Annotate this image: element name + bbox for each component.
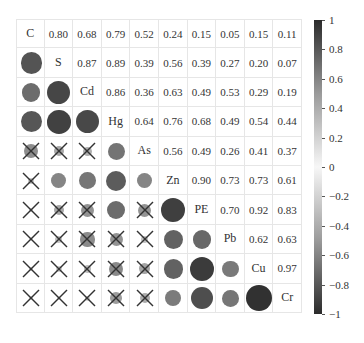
- correlation-value: 0.83: [278, 204, 297, 216]
- correlation-value: 0.26: [220, 145, 239, 157]
- non-significant-x-icon: [107, 289, 125, 307]
- lower-cell: [130, 284, 159, 313]
- diagonal-cell: Cr: [273, 284, 302, 313]
- variable-label: Pb: [224, 231, 237, 246]
- correlation-circle: [47, 110, 71, 134]
- correlation-value: 0.11: [278, 28, 297, 40]
- lower-cell: [45, 254, 74, 283]
- variable-label: PE: [194, 202, 208, 217]
- lower-cell: [102, 254, 131, 283]
- correlation-value: 0.49: [220, 115, 239, 127]
- upper-cell: 0.80: [45, 19, 74, 48]
- diagonal-cell: Cu: [245, 254, 274, 283]
- lower-cell: [188, 254, 217, 283]
- non-significant-x-icon: [107, 260, 125, 278]
- lower-cell: [102, 195, 131, 224]
- colorbar-tick-label: 0.2: [329, 132, 343, 144]
- lower-cell: [16, 48, 45, 77]
- diagonal-cell: Cd: [73, 78, 102, 107]
- colorbar-tick: [322, 108, 325, 109]
- upper-cell: 0.36: [130, 78, 159, 107]
- diagonal-cell: Pb: [216, 225, 245, 254]
- correlation-value: 0.73: [249, 174, 268, 186]
- lower-cell: [73, 107, 102, 136]
- correlation-value: 0.36: [135, 86, 154, 98]
- correlation-circle: [22, 83, 40, 101]
- correlation-value: 0.41: [249, 145, 268, 157]
- correlation-value: 0.56: [163, 57, 182, 69]
- correlation-circle: [76, 110, 99, 133]
- lower-cell: [130, 195, 159, 224]
- upper-cell: 0.63: [273, 225, 302, 254]
- upper-cell: 0.68: [73, 19, 102, 48]
- upper-cell: 0.15: [188, 19, 217, 48]
- upper-cell: 0.64: [130, 107, 159, 136]
- upper-cell: 0.39: [188, 48, 217, 77]
- non-significant-x-icon: [50, 230, 68, 248]
- correlation-value: 0.20: [249, 57, 268, 69]
- upper-cell: 0.86: [102, 78, 131, 107]
- colorbar-tick: [322, 255, 325, 256]
- variable-label: S: [55, 55, 62, 70]
- lower-cell: [16, 254, 45, 283]
- non-significant-x-icon: [78, 230, 96, 248]
- correlation-circle: [164, 230, 183, 249]
- lower-cell: [130, 166, 159, 195]
- upper-cell: 0.56: [159, 48, 188, 77]
- non-significant-x-icon: [50, 142, 68, 160]
- upper-cell: 0.26: [216, 137, 245, 166]
- upper-cell: 0.37: [273, 137, 302, 166]
- correlation-value: 0.49: [192, 86, 211, 98]
- upper-cell: 0.97: [273, 254, 302, 283]
- upper-cell: 0.70: [216, 195, 245, 224]
- lower-cell: [159, 254, 188, 283]
- correlation-value: 0.70: [220, 204, 239, 216]
- upper-cell: 0.76: [159, 107, 188, 136]
- upper-cell: 0.54: [245, 107, 274, 136]
- correlation-circle: [191, 287, 213, 309]
- lower-cell: [73, 254, 102, 283]
- correlation-value: 0.64: [135, 115, 154, 127]
- non-significant-x-icon: [136, 230, 154, 248]
- colorbar-tick: [322, 49, 325, 50]
- correlation-circle: [21, 111, 42, 132]
- upper-cell: 0.68: [188, 107, 217, 136]
- lower-cell: [73, 166, 102, 195]
- variable-label: Hg: [108, 114, 123, 129]
- upper-cell: 0.20: [245, 48, 274, 77]
- upper-cell: 0.89: [102, 48, 131, 77]
- upper-cell: 0.83: [273, 195, 302, 224]
- diagonal-cell: Hg: [102, 107, 131, 136]
- upper-cell: 0.29: [245, 78, 274, 107]
- upper-cell: 0.79: [102, 19, 131, 48]
- lower-cell: [159, 225, 188, 254]
- lower-cell: [102, 284, 131, 313]
- correlation-value: 0.79: [106, 28, 125, 40]
- correlation-circle: [108, 143, 125, 160]
- colorbar-tick: [322, 314, 325, 315]
- upper-cell: 0.24: [159, 19, 188, 48]
- diagonal-cell: As: [130, 137, 159, 166]
- upper-cell: 0.19: [273, 78, 302, 107]
- diagonal-cell: S: [45, 48, 74, 77]
- colorbar-tick: [322, 20, 325, 21]
- correlation-value: 0.39: [135, 57, 154, 69]
- diagonal-cell: Zn: [159, 166, 188, 195]
- lower-cell: [159, 284, 188, 313]
- correlation-circle: [165, 290, 181, 306]
- lower-cell: [102, 225, 131, 254]
- correlation-value: 0.44: [278, 115, 297, 127]
- correlation-value: 0.37: [278, 145, 297, 157]
- colorbar-tick-label: 0: [329, 161, 335, 173]
- correlation-value: 0.39: [192, 57, 211, 69]
- non-significant-x-icon: [136, 201, 154, 219]
- correlation-value: 0.53: [220, 86, 239, 98]
- correlation-value: 0.73: [220, 174, 239, 186]
- colorbar-tick: [322, 138, 325, 139]
- correlation-value: 0.87: [77, 57, 96, 69]
- colorbar-tick: [322, 285, 325, 286]
- colorbar-tick: [322, 79, 325, 80]
- lower-cell: [45, 137, 74, 166]
- lower-cell: [45, 195, 74, 224]
- correlation-circle: [107, 201, 125, 219]
